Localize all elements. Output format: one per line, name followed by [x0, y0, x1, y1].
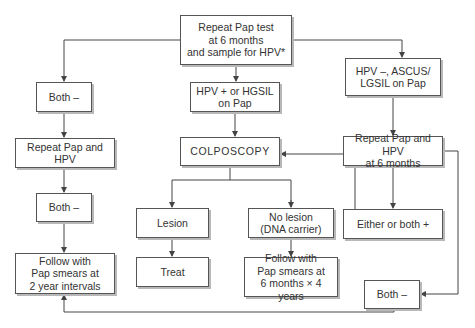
left-both-negative-node: Both – — [36, 82, 92, 112]
hpv-management-flowchart: Repeat Pap test at 6 months and sample f… — [0, 0, 475, 328]
right-repeat-pap-hpv-6-months-node: Repeat Pap and HPV at 6 months — [343, 136, 443, 166]
left-repeat-pap-hpv-node: Repeat Pap and HPV — [15, 138, 115, 168]
left-both-negative-node-2: Both – — [36, 193, 92, 222]
treat-node: Treat — [136, 257, 209, 287]
colposcopy-node: COLPOSCOPY — [180, 137, 280, 166]
hpv-positive-hgsil-node: HPV + or HGSIL on Pap — [190, 82, 280, 112]
either-or-both-positive-node: Either or both + — [343, 209, 443, 239]
right-both-negative-node: Both – — [364, 280, 420, 309]
hpv-negative-ascus-lgsil-node: HPV –, ASCUS/ LGSIL on Pap — [345, 58, 441, 96]
lesion-node: Lesion — [136, 208, 209, 238]
follow-pap-2-year-node: Follow with Pap smears at 2 year interva… — [15, 253, 115, 294]
start-node-repeat-pap-and-hpv-sample: Repeat Pap test at 6 months and sample f… — [180, 15, 292, 65]
follow-pap-6-months-node: Follow with Pap smears at 6 months × 4 y… — [244, 257, 338, 297]
no-lesion-dna-carrier-node: No lesion (DNA carrier) — [248, 208, 334, 238]
